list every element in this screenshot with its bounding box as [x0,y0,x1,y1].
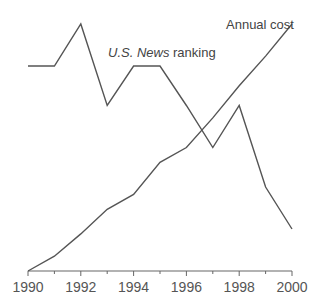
line-chart: 199019921994199619982000 U.S. News ranki… [0,0,323,304]
x-tick-label: 1990 [12,279,43,295]
x-tick-label: 1996 [171,279,202,295]
ranking-label-italic: U.S. News [108,45,170,60]
annual-cost-series-label: Annual cost [226,17,294,32]
x-tick-label: 1998 [224,279,255,295]
x-tick-label: 1994 [118,279,149,295]
x-tick-label: 2000 [276,279,307,295]
x-tick-label: 1992 [65,279,96,295]
ranking-label-plain: ranking [169,45,215,60]
x-axis-tick-labels: 199019921994199619982000 [12,279,307,295]
x-axis [28,271,292,276]
ranking-series-label: U.S. News ranking [108,45,216,60]
